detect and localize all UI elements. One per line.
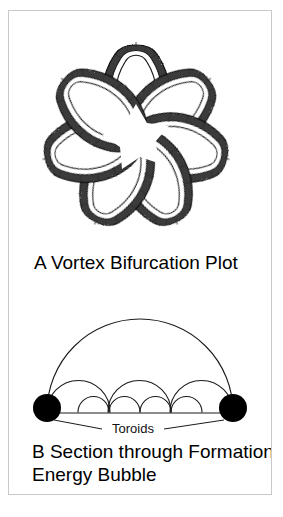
panel-b-caption: B Section through Formation Energy Bubbl… <box>32 440 271 486</box>
figure-panel: A Vortex Bifurcation Plot <box>0 0 283 517</box>
panel-b-caption-clip: B Section through Formation Energy Bubbl… <box>0 0 271 517</box>
panel-b-caption-line1: B Section through Formation <box>32 441 271 462</box>
panel-b-caption-line2: Energy Bubble <box>32 463 271 486</box>
